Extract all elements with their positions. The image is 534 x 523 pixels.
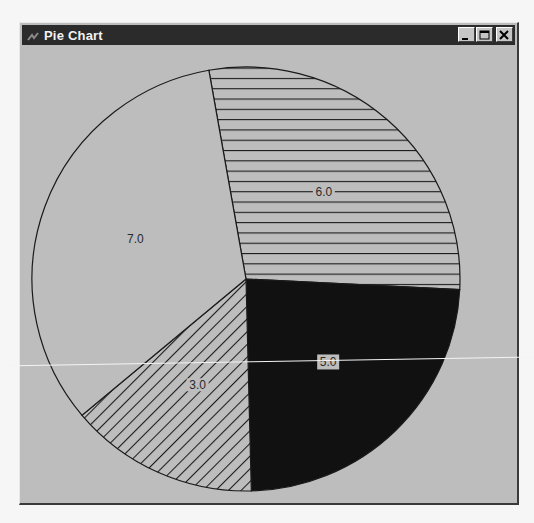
- chart-area: 6.05.03.07.0: [22, 47, 515, 501]
- maximize-button[interactable]: [476, 27, 493, 42]
- pie-slice-5.0: [246, 279, 460, 491]
- pie-slice-6.0: [209, 67, 460, 290]
- pie-chart-window: Pie Chart: [19, 22, 519, 505]
- pie-slices: [32, 67, 460, 491]
- slice-label: 7.0: [127, 232, 144, 246]
- pie-chart: 6.05.03.07.0: [22, 47, 518, 502]
- slice-label: 3.0: [189, 378, 206, 392]
- minimize-icon: [459, 29, 474, 42]
- close-icon: [497, 29, 512, 42]
- close-button[interactable]: [496, 27, 513, 42]
- caption-buttons: [457, 27, 513, 42]
- minimize-button[interactable]: [458, 27, 475, 42]
- maximize-icon: [477, 29, 492, 42]
- window-title: Pie Chart: [44, 28, 103, 43]
- title-bar[interactable]: Pie Chart: [22, 25, 515, 45]
- slice-label: 6.0: [316, 185, 333, 199]
- slice-label: 5.0: [320, 355, 337, 369]
- app-icon[interactable]: [26, 29, 40, 41]
